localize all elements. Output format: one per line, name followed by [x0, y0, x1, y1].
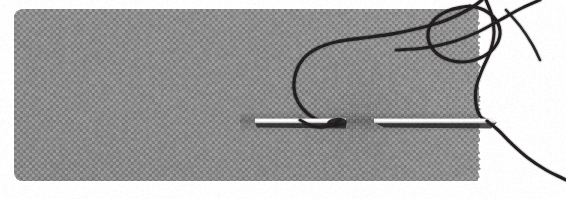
needle-and-fabric-photo [0, 0, 566, 199]
photo-frame: Close-up photograph of a steel sewing ne… [0, 0, 566, 199]
